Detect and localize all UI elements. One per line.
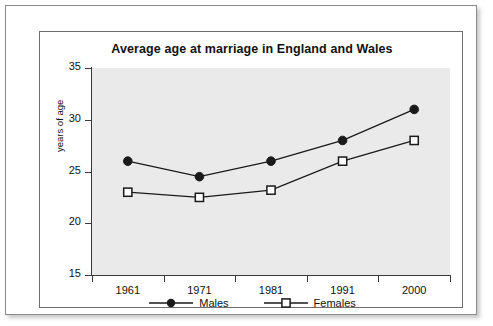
data-point-open-square	[267, 186, 275, 194]
plot-wrapper: 1520253035 19611971198119912000 years of…	[40, 32, 464, 309]
data-point-filled-circle	[267, 157, 276, 166]
page-frame: Average age at marriage in England and W…	[5, 5, 477, 315]
data-point-open-square	[124, 188, 132, 196]
chart-data-series	[40, 32, 464, 309]
series-line	[128, 109, 414, 176]
data-point-open-square	[195, 193, 203, 201]
figure-root: Average age at marriage in England and W…	[0, 0, 493, 326]
legend-label: Males	[199, 297, 228, 309]
legend-item-females: Females	[263, 297, 356, 309]
chart-container: Average age at marriage in England and W…	[39, 31, 463, 308]
data-point-filled-circle	[410, 105, 419, 114]
series-females	[124, 136, 419, 201]
data-point-filled-circle	[124, 157, 133, 166]
legend-item-males: Males	[148, 297, 228, 309]
chart-legend: MalesFemales	[40, 297, 464, 309]
series-males	[124, 105, 419, 181]
legend-label: Females	[314, 297, 356, 309]
data-point-open-square	[339, 157, 347, 165]
legend-marker-filled-circle	[148, 297, 194, 309]
data-point-open-square	[410, 136, 418, 144]
data-point-filled-circle	[338, 136, 347, 145]
data-point-filled-circle	[195, 172, 204, 181]
legend-marker-open-square	[263, 297, 309, 309]
